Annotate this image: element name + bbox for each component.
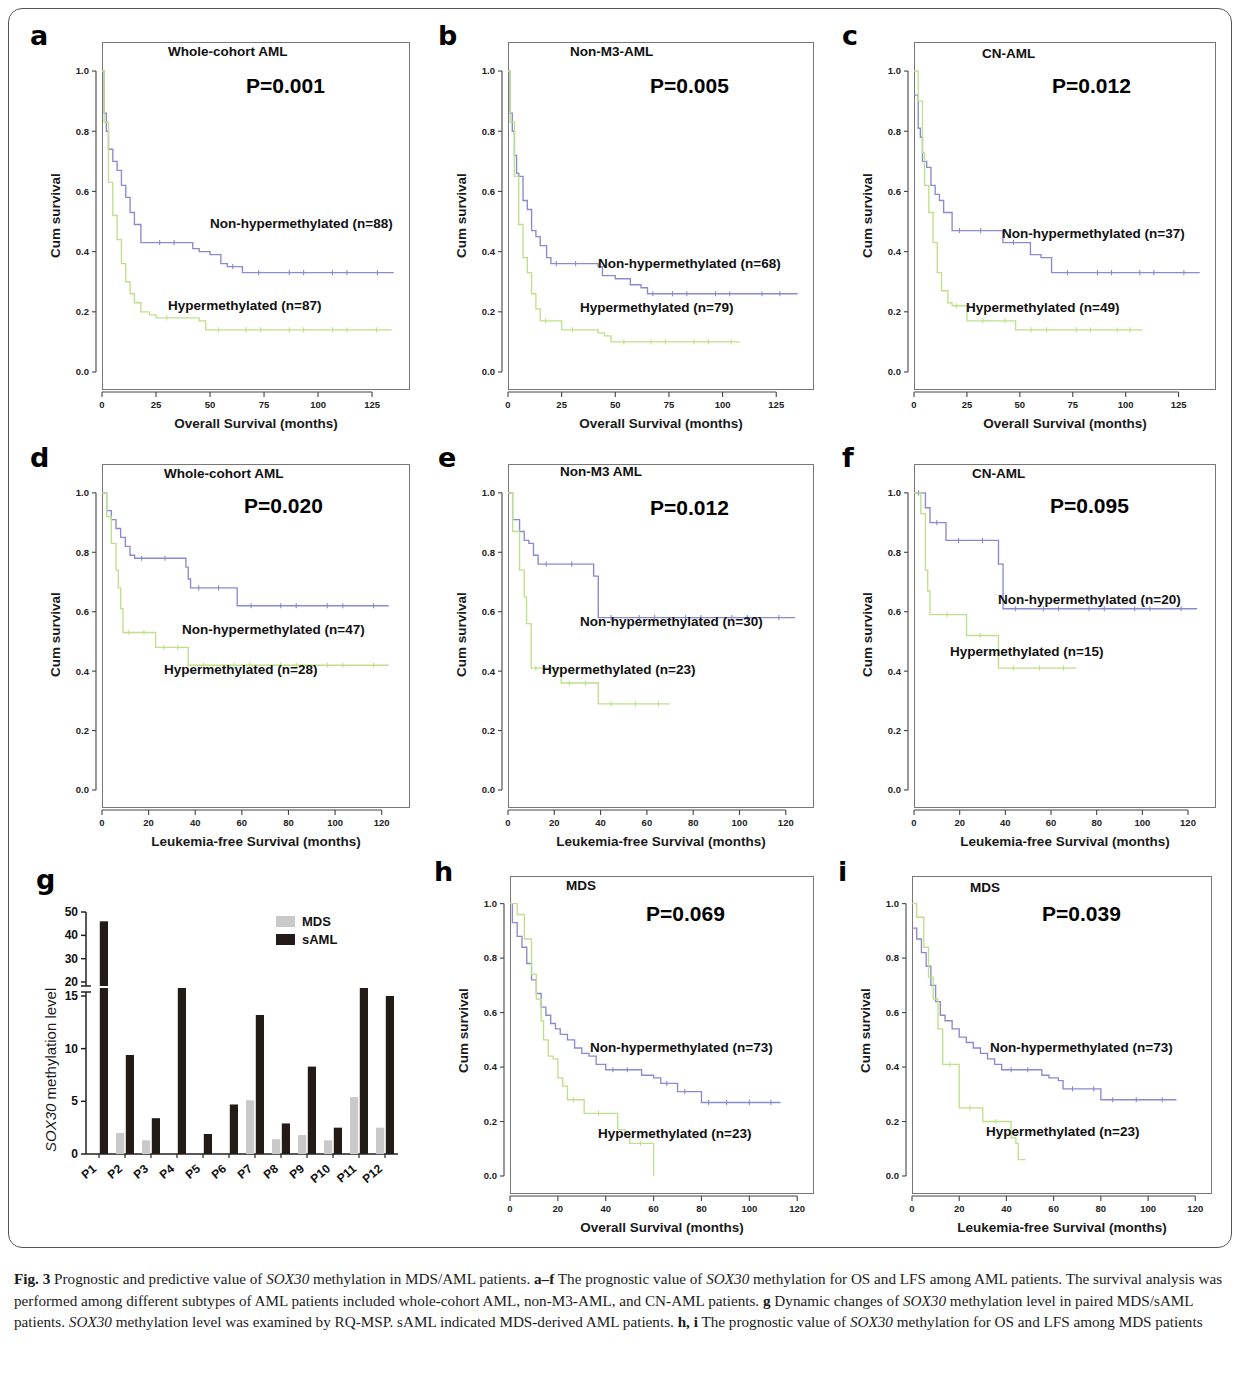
panel-i-title: MDS xyxy=(970,880,1000,895)
panel-a-ytick: 0.8 xyxy=(76,126,89,137)
panel-d-xtick: 100 xyxy=(327,817,343,828)
panel-f-xtick: 80 xyxy=(1091,817,1102,828)
panel-f: f0.00.20.40.60.81.0020406080100120CN-AML… xyxy=(834,444,1234,862)
panel-c-ytick: 0.6 xyxy=(888,186,901,197)
panel-i-ytick: 0.4 xyxy=(886,1061,900,1072)
panel-e-ytick: 0.8 xyxy=(482,547,495,558)
panel-g-xtick-p6: P6 xyxy=(209,1161,229,1181)
panel-g-ytick: 5 xyxy=(71,1094,78,1108)
panel-a: a0.00.20.40.60.81.00255075100125Whole-co… xyxy=(18,18,426,440)
panel-b-ytick: 1.0 xyxy=(482,65,495,76)
panel-a-ytick: 0.4 xyxy=(76,246,90,257)
panel-d-label-hypermethylated: Hypermethylated (n=28) xyxy=(164,662,317,677)
panel-letter-f: f xyxy=(842,444,854,471)
panel-g-legend-label: MDS xyxy=(302,914,331,929)
panel-f-xtick: 20 xyxy=(954,817,965,828)
panel-g-plot: 05101520304050P1P2P3P4P5P6P7P8P9P10P11P1… xyxy=(52,904,402,1204)
panel-g-bar-saml xyxy=(386,996,394,1154)
panel-h-series-non-hypermethylated xyxy=(510,904,780,1105)
panel-f-xaxis-title: Leukemia-free Survival (months) xyxy=(914,834,1216,849)
panel-c-ytick: 0.0 xyxy=(888,366,901,377)
panel-g-bar-mds xyxy=(246,1100,254,1154)
panel-c-xtick: 25 xyxy=(962,399,973,410)
panel-g-bar-saml-upper xyxy=(100,921,108,986)
panel-i-pvalue: P=0.039 xyxy=(1042,902,1121,926)
panel-g-xtick-p5: P5 xyxy=(183,1161,203,1181)
panel-h-ytick: 0.8 xyxy=(484,952,497,963)
panel-c-label-non-hypermethylated: Non-hypermethylated (n=37) xyxy=(1002,226,1185,241)
panel-e-ytick: 0.4 xyxy=(482,666,496,677)
panel-i-ytick: 0.2 xyxy=(886,1116,899,1127)
panel-a-ytick: 1.0 xyxy=(76,65,89,76)
panel-c-series-hypermethylated xyxy=(914,71,1143,332)
panel-f-ytick: 0.8 xyxy=(888,547,901,558)
panel-g-xtick-p9: P9 xyxy=(287,1161,307,1181)
panel-g-xtick-p2: P2 xyxy=(105,1161,125,1181)
panel-b-yaxis-title: Cum survival xyxy=(454,173,469,258)
panel-d-xtick: 20 xyxy=(143,817,154,828)
panel-b-ytick: 0.8 xyxy=(482,126,495,137)
panel-h-xtick: 80 xyxy=(696,1203,707,1214)
panel-b-xaxis-title: Overall Survival (months) xyxy=(508,416,814,431)
panel-g-bar-mds xyxy=(324,1140,332,1154)
panel-a-label-non-hypermethylated: Non-hypermethylated (n=88) xyxy=(210,216,393,231)
panel-g-legend: MDSsAML xyxy=(276,914,337,950)
panel-c-xtick: 100 xyxy=(1118,399,1134,410)
panel-g-ytick: 30 xyxy=(65,952,79,966)
panel-f-xtick: 60 xyxy=(1046,817,1057,828)
panel-g-bar-saml xyxy=(126,1055,134,1154)
panel-h-pvalue: P=0.069 xyxy=(646,902,725,926)
panel-h-title: MDS xyxy=(566,878,596,893)
panel-g-xtick-p10: P10 xyxy=(308,1161,334,1186)
panel-i-xtick: 120 xyxy=(1187,1203,1203,1214)
panel-d-ytick: 1.0 xyxy=(76,487,89,498)
panel-c-ytick: 0.4 xyxy=(888,246,902,257)
panel-g-svg: 05101520304050P1P2P3P4P5P6P7P8P9P10P11P1… xyxy=(52,904,402,1204)
panel-a-svg: 0.00.20.40.60.81.00255075100125 xyxy=(56,42,410,444)
panel-h-label-non-hypermethylated: Non-hypermethylated (n=73) xyxy=(590,1040,773,1055)
panel-b-ytick: 0.0 xyxy=(482,366,495,377)
panel-f-xtick: 120 xyxy=(1180,817,1196,828)
panel-b-xtick: 0 xyxy=(505,399,510,410)
panel-g-legend-label: sAML xyxy=(302,932,337,947)
panel-b-svg: 0.00.20.40.60.81.00255075100125 xyxy=(462,42,814,444)
panel-a-yaxis-title: Cum survival xyxy=(48,173,63,258)
panel-d-yaxis-title: Cum survival xyxy=(48,592,63,677)
panel-i-xtick: 60 xyxy=(1048,1203,1059,1214)
panel-a-title: Whole-cohort AML xyxy=(168,44,287,59)
panel-c-series-non-hypermethylated xyxy=(914,95,1200,275)
panel-f-ytick: 1.0 xyxy=(888,487,901,498)
panel-c-xtick: 50 xyxy=(1015,399,1026,410)
panel-i-xtick: 0 xyxy=(909,1203,914,1214)
panel-c-title: CN-AML xyxy=(982,46,1035,61)
panel-e-xtick: 80 xyxy=(688,817,699,828)
panel-letter-d: d xyxy=(30,444,49,471)
panel-i: i0.00.20.40.60.81.0020406080100120MDSP=0… xyxy=(836,862,1234,1248)
panel-g-ytick: 10 xyxy=(65,1042,79,1056)
panel-g-bar-saml xyxy=(100,988,108,1154)
panel-a-xtick: 25 xyxy=(151,399,162,410)
panel-letter-h: h xyxy=(434,858,453,885)
panel-a-series-hypermethylated xyxy=(102,71,392,332)
panel-letter-e: e xyxy=(438,444,456,471)
panel-a-xtick: 75 xyxy=(259,399,270,410)
panel-a-xtick: 50 xyxy=(205,399,216,410)
panel-c-ytick: 1.0 xyxy=(888,65,901,76)
panel-a-ytick: 0.2 xyxy=(76,306,89,317)
panel-i-ytick: 1.0 xyxy=(886,898,899,909)
figure-caption: Fig. 3 Prognostic and predictive value o… xyxy=(14,1268,1230,1333)
panel-e-label-non-hypermethylated: Non-hypermethylated (n=30) xyxy=(580,614,763,629)
panel-g-bar-saml xyxy=(152,1118,160,1154)
panel-g-bar-mds xyxy=(350,1097,358,1154)
panel-d-ytick: 0.6 xyxy=(76,606,89,617)
panel-g-xtick-p8: P8 xyxy=(261,1161,281,1181)
panel-g-ytick: 50 xyxy=(65,905,79,919)
panel-a-series-non-hypermethylated xyxy=(102,71,394,275)
panel-g-bar-saml xyxy=(178,988,186,1154)
panel-d-xtick: 60 xyxy=(237,817,248,828)
panel-c-pvalue: P=0.012 xyxy=(1052,74,1131,98)
panel-h: h0.00.20.40.60.81.0020406080100120MDSP=0… xyxy=(432,862,836,1248)
panel-letter-b: b xyxy=(438,22,457,49)
panel-f-svg: 0.00.20.40.60.81.0020406080100120 xyxy=(868,464,1216,862)
panel-h-ytick: 0.6 xyxy=(484,1007,497,1018)
